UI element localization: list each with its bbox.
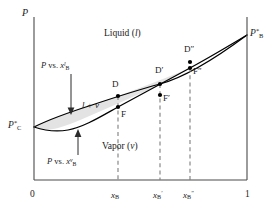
y-axis-title: P: [22, 8, 28, 18]
point-label-F: F: [121, 110, 126, 119]
point-label-F-text: F: [121, 109, 126, 119]
x-tick-xB-sub: B: [115, 194, 119, 200]
liquid-callout-sub: B: [66, 65, 70, 71]
vapor-curve-callout: P vs. xvB: [47, 157, 76, 167]
two-phase-region-shading: [34, 35, 247, 130]
point-label-Fpp-prime: ″: [198, 66, 202, 76]
vapor-callout-vs: vs.: [52, 156, 66, 166]
left-endpoint-label: P*C: [8, 120, 21, 131]
point-D: [116, 94, 120, 98]
liquid-region-text: Liquid (: [104, 28, 135, 38]
point-label-D-double-prime: D″: [184, 45, 194, 54]
x-tick-1: 1: [245, 190, 250, 200]
point-label-Dpp-prime: ″: [191, 44, 195, 54]
right-endpoint-label: P*B: [250, 28, 263, 39]
vapor-region-text: Vapor (: [102, 141, 130, 151]
point-label-F-double-prime: F″: [193, 67, 202, 76]
two-phase-plus: +: [87, 100, 93, 110]
liquid-curve: [34, 35, 247, 127]
point-F-double-prime: [188, 66, 192, 70]
point-F-prime: [158, 93, 162, 97]
x-tick-xB-prime: xB′: [153, 190, 162, 200]
x-tick-xBp-prime: ′: [161, 190, 162, 196]
vapor-callout-sub: B: [72, 161, 76, 167]
two-phase-region-label: l + v: [82, 101, 99, 110]
x-tick-xBpp-prime: ″: [191, 190, 194, 196]
point-label-D-text: D: [112, 79, 119, 89]
point-label-Dp-prime: ′: [162, 65, 164, 75]
vapor-region-paren: ): [134, 141, 137, 151]
vapor-region-label: Vapor (v): [102, 142, 138, 152]
x-tick-xB: xB: [111, 190, 119, 200]
liquid-curve-callout: P vs. xlB: [41, 61, 69, 71]
x-tick-0: 0: [30, 190, 35, 200]
liquid-region-label: Liquid (l): [104, 29, 141, 39]
point-D-prime: [158, 82, 162, 86]
liquid-callout-arrow-icon: [68, 74, 75, 115]
liquid-region-paren: ): [138, 28, 141, 38]
point-label-D-prime: D′: [155, 66, 163, 75]
phase-diagram-figure: P P*C P*B Liquid (l) Vapor (v) l + v P v…: [0, 0, 274, 216]
right-endpoint-subscript: B: [259, 32, 263, 39]
point-F: [116, 105, 120, 109]
vapor-callout-arrow-icon: [75, 129, 82, 155]
point-label-D: D: [112, 80, 119, 89]
point-label-F-prime: F′: [163, 94, 170, 103]
liquid-callout-vs: vs.: [46, 60, 60, 70]
point-label-Fp-prime: ′: [168, 93, 170, 103]
point-D-double-prime: [188, 60, 192, 64]
x-tick-xB-double-prime: xB″: [183, 190, 194, 200]
two-phase-v: v: [95, 100, 99, 110]
left-endpoint-subscript: C: [17, 124, 21, 131]
